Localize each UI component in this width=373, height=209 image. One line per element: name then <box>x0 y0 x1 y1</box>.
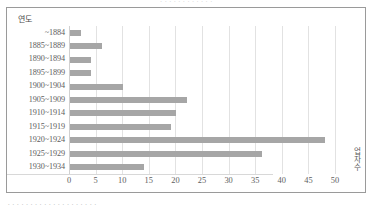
category-label: 1890~1894 <box>29 54 65 63</box>
bar <box>70 124 171 130</box>
bar <box>70 151 262 157</box>
chart-figure-frame: 연도 ~18841885~18891890~18941895~18991900~… <box>6 7 366 193</box>
x-tick-label: 35 <box>251 176 259 185</box>
y-axis-title: 연도 <box>18 13 32 24</box>
category-label: 1915~1919 <box>29 122 65 131</box>
x-tick-label: 10 <box>118 176 126 185</box>
clipped-caption-above: ∙ ∙ ∙ ∙ ∙ ∙ ∙ ∙ ∙ ∙ ∙ ∙ <box>0 0 373 4</box>
bar <box>70 97 187 103</box>
x-axis-title-char: 수 <box>351 164 363 172</box>
x-axis-line <box>7 174 273 175</box>
bar <box>70 43 102 49</box>
x-tick-label: 15 <box>145 176 153 185</box>
gridline <box>335 26 336 174</box>
bar <box>70 30 81 36</box>
category-axis-labels: ~18841885~18891890~18941895~18991900~190… <box>7 26 69 174</box>
x-axis-title: 업자수 <box>351 148 363 173</box>
bar <box>70 137 325 143</box>
bar <box>70 57 91 63</box>
x-axis-tick-labels: 05101520253035404550 <box>69 176 335 190</box>
x-tick-label: 0 <box>67 176 71 185</box>
bar <box>70 110 176 116</box>
gridline <box>282 26 283 174</box>
x-tick-label: 45 <box>304 176 312 185</box>
category-label: 1900~1904 <box>29 81 65 90</box>
category-label: 1905~1909 <box>29 95 65 104</box>
bar <box>70 84 123 90</box>
x-tick-label: 40 <box>278 176 286 185</box>
category-label: 1920~1924 <box>29 135 65 144</box>
plot-wrapper: ~18841885~18891890~18941895~18991900~190… <box>7 26 365 192</box>
category-label: ~1884 <box>45 28 65 37</box>
x-tick-label: 25 <box>198 176 206 185</box>
x-tick-label: 30 <box>224 176 232 185</box>
category-label: 1885~1889 <box>29 41 65 50</box>
bar <box>70 70 91 76</box>
chart-page: ∙ ∙ ∙ ∙ ∙ ∙ ∙ ∙ ∙ ∙ ∙ ∙ 연도 ~18841885~188… <box>0 0 373 209</box>
bar <box>70 164 144 170</box>
category-label: 1925~1929 <box>29 149 65 158</box>
category-label: 1930~1934 <box>29 162 65 171</box>
x-tick-label: 5 <box>94 176 98 185</box>
gridline <box>308 26 309 174</box>
category-label: 1910~1914 <box>29 108 65 117</box>
x-tick-label: 20 <box>171 176 179 185</box>
plot-area <box>69 26 335 174</box>
clipped-caption-below: ∙ ∙ ∙ ∙ ∙ ∙ ∙ ∙ ∙ ∙ ∙ ∙ ∙ ∙ ∙ ∙ ∙ ∙ ∙ ∙ <box>0 200 373 209</box>
category-label: 1895~1899 <box>29 68 65 77</box>
x-tick-label: 50 <box>331 176 339 185</box>
